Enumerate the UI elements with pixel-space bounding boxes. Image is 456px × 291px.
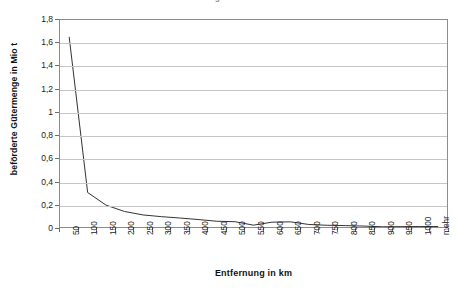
x-axis-tick-label: 800 — [350, 221, 359, 235]
x-axis-tick-label: 1000 — [424, 217, 433, 235]
x-axis-tick-label: 750 — [331, 221, 340, 235]
y-axis-tick-label: 0 — [48, 224, 53, 233]
x-axis-tick-label: 850 — [368, 221, 377, 235]
y-axis-tick-label: 1,6 — [41, 38, 53, 47]
gridline — [60, 206, 447, 207]
chart-container: Verkehrsaufkommen nach Entfernungsklasse… — [0, 0, 456, 291]
x-axis-tick-label: 650 — [294, 221, 303, 235]
x-axis-tick-label: 300 — [164, 221, 173, 235]
gridline — [60, 183, 447, 184]
x-axis-tick-label: 150 — [109, 221, 118, 235]
chart-title: Verkehrsaufkommen nach Entfernungsklasse… — [60, 0, 360, 2]
x-axis-tick-label: 350 — [183, 221, 192, 235]
x-axis-tick-label: 600 — [276, 221, 285, 235]
y-axis-tick-label: 1,4 — [41, 61, 53, 70]
x-axis-tick-label: 700 — [313, 221, 322, 235]
y-axis-tick-labels: 00,20,40,60,811,21,41,61,8 — [0, 0, 59, 248]
x-axis-tick-label: 950 — [405, 221, 414, 235]
x-axis-title: Entfernung in km — [59, 268, 448, 278]
gridline — [60, 90, 447, 91]
gridline — [60, 159, 447, 160]
gridline — [60, 113, 447, 114]
x-axis-tick-label: 500 — [238, 221, 247, 235]
x-axis-tick-label: 100 — [90, 221, 99, 235]
y-axis-tick-label: 0,2 — [41, 200, 53, 209]
x-axis-tick-label: 50 — [72, 226, 81, 235]
data-series-line — [60, 20, 447, 227]
gridline — [60, 43, 447, 44]
x-axis-tick-labels: 5010015020025030035040045050055060065070… — [59, 233, 448, 267]
x-axis-tick-label: 200 — [127, 221, 136, 235]
y-axis-tick-label: 1 — [48, 107, 53, 116]
x-axis-tick-label: mehr — [442, 216, 451, 235]
y-axis-tick-label: 1,2 — [41, 84, 53, 93]
x-axis-tick-label: 450 — [220, 221, 229, 235]
x-axis-tick-label: 400 — [201, 221, 210, 235]
gridline — [60, 136, 447, 137]
y-axis-tick-label: 0,4 — [41, 177, 53, 186]
y-axis-tick-label: 0,6 — [41, 154, 53, 163]
plot-area — [59, 19, 448, 228]
x-axis-tick-label: 550 — [257, 221, 266, 235]
gridline — [60, 66, 447, 67]
x-axis-tick-mark — [59, 228, 60, 232]
y-axis-tick-label: 0,8 — [41, 131, 53, 140]
y-axis-tick-label: 1,8 — [41, 15, 53, 24]
x-axis-tick-label: 900 — [387, 221, 396, 235]
x-axis-tick-label: 250 — [146, 221, 155, 235]
